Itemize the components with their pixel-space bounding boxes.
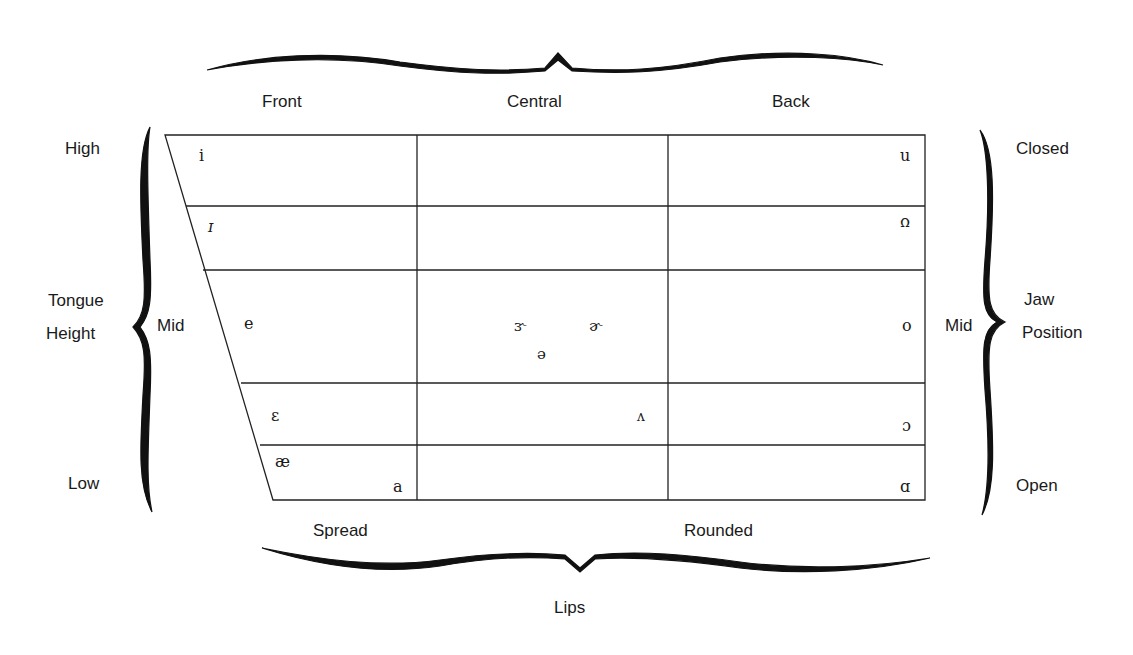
label-tongue: Tongue xyxy=(48,291,104,311)
label-front: Front xyxy=(262,92,302,112)
bottom-brace xyxy=(262,548,930,572)
vowel-reversed-epsilon-hook: ɝ xyxy=(514,317,526,335)
vowel-a: a xyxy=(393,477,403,496)
label-jaw: Jaw xyxy=(1024,290,1054,310)
vowel-e: e xyxy=(244,314,253,333)
vowel-script-a: ɑ xyxy=(900,477,910,496)
vowel-wedge: ʌ xyxy=(637,408,645,424)
label-back: Back xyxy=(772,92,810,112)
label-height: Height xyxy=(46,324,95,344)
vowel-ae: æ xyxy=(275,452,290,471)
vowel-o: o xyxy=(902,316,912,335)
top-brace xyxy=(207,53,883,73)
left-brace xyxy=(133,127,152,512)
label-closed: Closed xyxy=(1016,139,1069,159)
label-high: High xyxy=(65,139,100,159)
label-rounded: Rounded xyxy=(684,521,753,541)
right-brace xyxy=(980,130,1005,515)
label-central: Central xyxy=(507,92,562,112)
vowel-schwa: ə xyxy=(537,345,546,363)
vowel-i: i xyxy=(199,146,204,165)
label-open: Open xyxy=(1016,476,1058,496)
label-low: Low xyxy=(68,474,99,494)
label-mid-right: Mid xyxy=(945,316,972,336)
label-lips: Lips xyxy=(554,598,585,618)
vowel-u: u xyxy=(900,146,910,165)
label-mid-left: Mid xyxy=(157,316,184,336)
vowel-schwa-hook: ɚ xyxy=(589,317,602,335)
vowel-open-o: ɔ xyxy=(902,416,911,435)
vowel-upsilon: ʊ xyxy=(900,214,910,233)
label-spread: Spread xyxy=(313,521,368,541)
vowel-epsilon: ɛ xyxy=(271,406,279,425)
vowel-small-cap-i: ɪ xyxy=(208,217,213,236)
label-position: Position xyxy=(1022,323,1082,343)
